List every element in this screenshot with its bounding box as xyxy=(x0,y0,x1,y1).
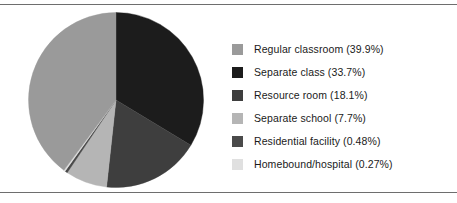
legend-item-label: Resource room (18.1%) xyxy=(254,89,368,101)
pie-graphic xyxy=(28,12,204,188)
legend-item: Regular classroom (39.9%) xyxy=(232,38,452,60)
legend-swatch-regular-classroom xyxy=(232,44,243,55)
legend-swatch-residential-facility xyxy=(232,136,243,147)
legend-swatch-separate-school xyxy=(232,113,243,124)
legend: Regular classroom (39.9%)Separate class … xyxy=(232,38,452,176)
legend-item-label: Residential facility (0.48%) xyxy=(254,135,381,147)
pie-chart: Regular classroom (39.9%)Separate class … xyxy=(0,8,457,190)
legend-swatch-separate-class xyxy=(232,67,243,78)
top-rule xyxy=(0,4,457,5)
legend-item-label: Separate class (33.7%) xyxy=(254,66,365,78)
bottom-rule xyxy=(0,192,457,193)
legend-item-label: Homebound/hospital (0.27%) xyxy=(254,158,393,170)
legend-item: Resource room (18.1%) xyxy=(232,84,452,106)
legend-item: Separate school (7.7%) xyxy=(232,107,452,129)
legend-item-label: Separate school (7.7%) xyxy=(254,112,366,124)
legend-item: Residential facility (0.48%) xyxy=(232,130,452,152)
pie-svg xyxy=(28,12,204,188)
pie-slices xyxy=(29,13,204,188)
legend-item-label: Regular classroom (39.9%) xyxy=(254,43,384,55)
legend-swatch-homebound-hospital xyxy=(232,159,243,170)
legend-item: Homebound/hospital (0.27%) xyxy=(232,153,452,175)
legend-swatch-resource-room xyxy=(232,90,243,101)
legend-item: Separate class (33.7%) xyxy=(232,61,452,83)
figure-panel: Regular classroom (39.9%)Separate class … xyxy=(0,0,457,203)
